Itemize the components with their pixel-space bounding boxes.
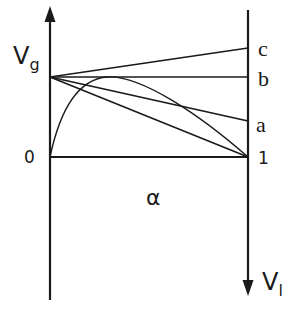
label-a: a bbox=[256, 112, 266, 137]
down-arrow-icon bbox=[243, 280, 254, 296]
diagram-canvas: Vg 0 1 c b a α Vl bbox=[0, 0, 298, 318]
alpha-label: α bbox=[146, 185, 161, 210]
line-c bbox=[50, 48, 248, 77]
end-label: 1 bbox=[258, 148, 269, 168]
label-c: c bbox=[258, 36, 268, 61]
line-a bbox=[50, 77, 248, 121]
origin-label: 0 bbox=[24, 147, 35, 167]
label-b: b bbox=[258, 66, 269, 91]
line-1 bbox=[50, 77, 248, 157]
vg-label: Vg bbox=[13, 42, 40, 74]
up-arrow-icon bbox=[45, 6, 56, 22]
vl-label: Vl bbox=[262, 268, 283, 300]
